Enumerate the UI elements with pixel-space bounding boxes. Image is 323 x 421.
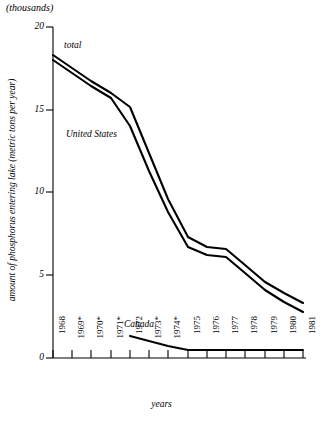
x-tick-label-1979: 1979 bbox=[269, 316, 279, 362]
x-tick-label-1976: 1976 bbox=[211, 316, 221, 362]
y-tick-label-20: 20 bbox=[18, 21, 44, 31]
x-tick-label-1981: 1981 bbox=[307, 316, 317, 362]
x-tick-label-1980: 1980 bbox=[288, 316, 298, 362]
y-tick-label-15: 15 bbox=[18, 104, 44, 114]
phosphorus-line-chart-figure: (thousands) bbox=[0, 0, 323, 421]
x-tick-label-1973: 1973* bbox=[153, 316, 163, 362]
x-tick-label-1975: 1975 bbox=[192, 316, 202, 362]
y-tick-label-0: 0 bbox=[18, 352, 44, 362]
y-axis-ticks bbox=[46, 27, 53, 358]
x-tick-label-1970: 1970* bbox=[95, 316, 105, 362]
series-label-united-states: United States bbox=[66, 129, 117, 139]
x-tick-label-1977: 1977 bbox=[230, 316, 240, 362]
axis-lines bbox=[53, 27, 306, 358]
x-tick-label-1968: 1968 bbox=[57, 316, 67, 362]
y-axis-title: amount of phosphorus entering lake (metr… bbox=[7, 65, 17, 315]
series-line-united-states bbox=[53, 60, 303, 312]
x-tick-label-1974: 1974* bbox=[172, 316, 182, 362]
x-axis-title: years bbox=[0, 399, 323, 409]
y-tick-label-5: 5 bbox=[18, 269, 44, 279]
x-tick-label-1969: 1969* bbox=[76, 316, 86, 362]
series-label-total: total bbox=[64, 40, 81, 50]
y-tick-label-10: 10 bbox=[18, 186, 44, 196]
series-label-canada: Canada bbox=[124, 319, 154, 329]
x-tick-label-1978: 1978 bbox=[249, 316, 259, 362]
data-series bbox=[53, 55, 303, 350]
series-line-total bbox=[53, 55, 303, 303]
